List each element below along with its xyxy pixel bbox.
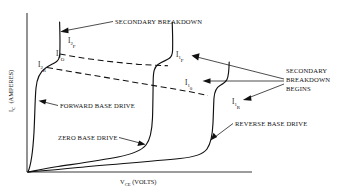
svg-text:IC (AMPERES): IC (AMPERES): [7, 70, 16, 112]
y-axis-units: (AMPERES): [7, 70, 15, 104]
x-axis-label: VCE (VOLTS): [120, 178, 157, 187]
label-i10-sub-second: 0: [190, 86, 193, 91]
axis-group: [27, 13, 252, 172]
annotation-secondary-breakdown-begins: SECONDARY BREAKDOWN BEGINS: [192, 53, 331, 101]
curve-forward-base-drive: [28, 22, 60, 172]
sbb-line1: SECONDARY: [286, 67, 327, 74]
y-axis-label: IC (AMPERES): [7, 70, 16, 112]
label-i2r-sub-second: R: [43, 68, 47, 73]
label-i1f: I1F: [176, 51, 184, 63]
sbb-line3: BEGINS: [286, 85, 311, 92]
curve-zero-base-drive: [28, 22, 173, 172]
secondary-breakdown-chart: IC (AMPERES) VCE (VOLTS) I2F: [0, 0, 342, 192]
secondary-breakdown-arrowhead: [60, 28, 68, 34]
annotation-reverse-base-drive: REVERSE BASE DRIVE: [210, 120, 307, 140]
reverse-base-drive-leader: [215, 124, 233, 138]
secondary-breakdown-text: SECONDARY BREAKDOWN: [115, 18, 202, 25]
forward-base-drive-leader: [44, 102, 58, 106]
svg-text:I1R: I1R: [232, 98, 241, 110]
svg-text:I2F: I2F: [68, 37, 76, 49]
sbb-arrowhead-i1r: [243, 95, 252, 101]
sbb-leader-i1f: [197, 57, 284, 79]
sbb-leader-i1r: [248, 84, 284, 98]
annotation-zero-base-drive: ZERO BASE DRIVE: [58, 134, 146, 146]
locus-secondary-breakdown-onset: [47, 68, 208, 96]
reverse-base-drive-text: REVERSE BASE DRIVE: [235, 120, 307, 127]
label-i2r: I2R: [38, 61, 47, 73]
annotation-forward-base-drive: FORWARD BASE DRIVE: [39, 99, 135, 109]
figure-container: IC (AMPERES) VCE (VOLTS) I2F: [0, 0, 342, 192]
label-i1r-sub-second: R: [237, 105, 241, 110]
svg-text:I10: I10: [185, 79, 193, 91]
zero-base-drive-text: ZERO BASE DRIVE: [58, 134, 118, 141]
label-i2f: I2F: [68, 37, 76, 49]
sbb-arrowhead-i10: [203, 78, 211, 84]
label-i2o-sub-second: O: [61, 57, 65, 62]
locus-secondary-breakdown-upper: [60, 54, 168, 66]
sbb-line2: BREAKDOWN: [286, 76, 330, 83]
svg-text:VCE (VOLTS): VCE (VOLTS): [120, 178, 157, 187]
svg-text:I2R: I2R: [38, 61, 47, 73]
sbb-arrowhead-i1f: [192, 53, 200, 60]
label-i1r: I1R: [232, 98, 241, 110]
svg-text:I1F: I1F: [176, 51, 184, 63]
zero-base-drive-arrowhead: [137, 141, 145, 146]
label-i10: I10: [185, 79, 193, 91]
label-i1f-sub-second: F: [181, 58, 184, 63]
curve-reverse-base-drive: [28, 62, 229, 172]
forward-base-drive-text: FORWARD BASE DRIVE: [60, 102, 135, 109]
x-axis-units: (VOLTS): [132, 178, 156, 186]
zero-base-drive-leader: [119, 138, 140, 144]
annotation-secondary-breakdown: SECONDARY BREAKDOWN: [60, 18, 202, 33]
secondary-breakdown-leader: [66, 22, 113, 31]
label-i2f-sub-second: F: [73, 44, 76, 49]
forward-base-drive-arrowhead: [39, 99, 47, 104]
